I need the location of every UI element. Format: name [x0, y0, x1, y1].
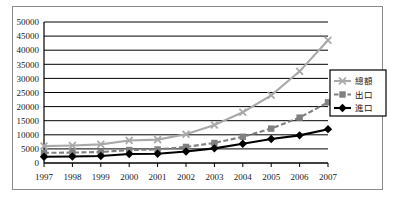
y-axis-tick-label: 35000 [17, 60, 40, 70]
y-axis-tick-label: 10000 [17, 130, 40, 140]
y-axis-tick-label: 20000 [17, 102, 40, 112]
x-axis-tick-label: 2005 [262, 172, 281, 182]
y-axis-tick-label: 40000 [17, 45, 40, 55]
x-axis-tick-label: 1998 [63, 172, 82, 182]
line-chart: 0500010000150002000025000300003500040000… [0, 0, 395, 201]
series-line [44, 40, 328, 146]
data-point-marker [295, 131, 303, 139]
x-axis-tick-label: 2002 [177, 172, 195, 182]
x-axis-tick-label: 2000 [120, 172, 139, 182]
y-axis-tick-label: 30000 [17, 74, 40, 84]
y-axis-tick-label: 25000 [17, 88, 40, 98]
data-series [41, 37, 332, 150]
data-point-marker [267, 135, 275, 143]
legend-label: 出口 [355, 90, 373, 100]
x-axis-tick-label: 2006 [291, 172, 310, 182]
x-axis-tick-label: 2001 [149, 172, 167, 182]
y-axis-tick-label: 5000 [21, 144, 40, 154]
y-axis-tick-label: 50000 [17, 17, 40, 27]
y-axis-tick-label: 45000 [17, 31, 40, 41]
x-axis-tick-label: 2007 [319, 172, 338, 182]
data-point-marker [268, 125, 274, 131]
chart-legend: 總額出口進口 [330, 70, 386, 116]
data-point-marker [339, 91, 345, 97]
gridlines [44, 22, 328, 163]
data-series-group [40, 37, 332, 161]
data-series [40, 125, 332, 161]
x-axis-tick-label: 1997 [35, 172, 54, 182]
legend-label: 總額 [355, 76, 373, 86]
data-point-marker [296, 114, 302, 120]
legend-label: 進口 [355, 103, 373, 113]
x-axis-tick-label: 2004 [234, 172, 253, 182]
y-axis-tick-labels: 0500010000150002000025000300003500040000… [17, 17, 40, 168]
x-axis-tick-labels: 1997199819992000200120022003200420052006… [35, 172, 338, 182]
data-point-marker [240, 134, 246, 140]
y-axis-tick-label: 0 [35, 158, 40, 168]
x-axis-tick-label: 2003 [205, 172, 224, 182]
x-axis-ticks [44, 163, 328, 167]
data-point-marker [239, 140, 247, 148]
data-point-marker [324, 125, 332, 133]
x-axis-tick-label: 1999 [92, 172, 111, 182]
y-axis-tick-label: 15000 [17, 116, 40, 126]
